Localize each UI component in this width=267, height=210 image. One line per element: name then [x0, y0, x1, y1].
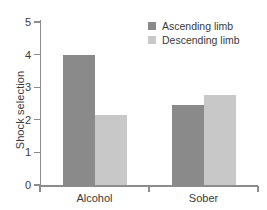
x-axis-category-label: Alcohol: [76, 192, 112, 204]
bar: [95, 115, 127, 185]
x-axis-category-label: Sober: [189, 192, 218, 204]
y-axis-tick: [34, 87, 40, 88]
legend-label: Ascending limb: [162, 20, 233, 32]
y-axis-tick-label: 3: [0, 81, 31, 93]
bar: [63, 55, 95, 185]
legend: Ascending limbDescending limb: [148, 19, 240, 47]
y-axis-tick: [34, 119, 40, 120]
bar: [204, 95, 236, 185]
legend-item: Ascending limb: [148, 19, 240, 33]
y-axis-tick-label: 4: [0, 49, 31, 61]
x-axis-tick: [257, 186, 258, 192]
y-axis-tick-label: 1: [0, 146, 31, 158]
y-axis-tick: [34, 21, 40, 22]
y-axis-tick-label: 2: [0, 114, 31, 126]
y-axis-tick: [34, 54, 40, 55]
legend-swatch-icon: [148, 22, 156, 30]
legend-item: Descending limb: [148, 33, 240, 47]
y-axis-tick-label: 5: [0, 16, 31, 28]
x-axis-tick: [148, 186, 149, 192]
y-axis-line: [40, 20, 41, 186]
x-axis-tick: [39, 186, 40, 192]
legend-swatch-icon: [148, 36, 156, 44]
y-axis-tick-label: 0: [0, 179, 31, 191]
bar-chart: Shock selection 012345 AlcoholSober Asce…: [0, 0, 267, 210]
y-axis-tick: [34, 152, 40, 153]
legend-label: Descending limb: [162, 34, 240, 46]
bar: [172, 105, 204, 185]
